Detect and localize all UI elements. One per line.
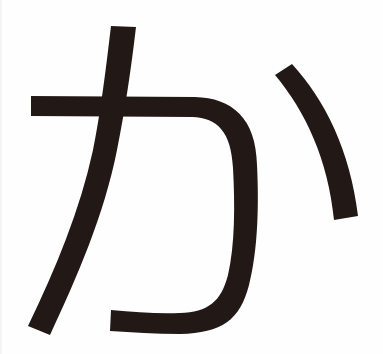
stroke-diagonal: [28, 26, 136, 335]
glyph-canvas: か: [0, 0, 383, 354]
hiragana-ka-glyph: [0, 0, 383, 354]
glyph-strokes: [28, 26, 358, 335]
stroke-tick: [275, 64, 358, 220]
